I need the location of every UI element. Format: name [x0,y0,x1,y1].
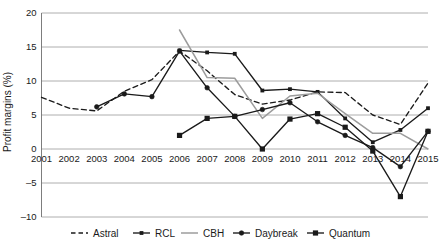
profit-margins-line-chart: –10–505101520 20012002200320042005200620… [0,0,440,247]
x-tick-label-2002: 2002 [59,153,80,164]
legend-marker-quantum [313,230,318,235]
data-point-rcl-2013 [371,140,375,144]
series-line-cbh [180,30,428,149]
data-point-quantum-2012 [343,125,348,130]
data-point-quantum-2008 [232,114,237,119]
y-tick-label-15: 15 [26,41,37,52]
data-point-quantum-2007 [205,116,210,121]
series-line-astral [42,51,429,124]
legend-group: AstralRCLCBHDaybreakQuantum [71,228,370,239]
data-point-quantum-2011 [315,111,320,116]
data-point-quantum-2006 [177,133,182,138]
data-point-quantum-2014 [398,194,403,199]
y-tick-label-10: 10 [26,75,37,86]
y-axis-title: Profit margins (%) [2,72,13,152]
y-tick-label-5: 5 [31,109,36,120]
x-tick-label-2007: 2007 [197,153,218,164]
x-tick-label-2003: 2003 [86,153,107,164]
legend-label-cbh: CBH [203,228,224,239]
legend-label-astral: Astral [93,228,119,239]
x-tick-label-2001: 2001 [31,153,52,164]
data-point-daybreak-2010 [288,100,293,105]
legend-marker-rcl [140,231,144,235]
data-point-rcl-2008 [233,52,237,56]
legend-item-quantum[interactable]: Quantum [307,228,370,239]
data-point-daybreak-2004 [122,92,127,97]
y-tick-label--10: –10 [21,211,37,222]
x-tick-label-2008: 2008 [224,153,245,164]
data-point-quantum-2010 [287,116,292,121]
data-point-daybreak-2007 [205,86,210,91]
y-axis-ticks-group: –10–505101520 [21,7,37,222]
data-point-daybreak-2005 [150,94,155,99]
legend-item-astral[interactable]: Astral [71,228,119,239]
legend-item-cbh[interactable]: CBH [181,228,224,239]
data-point-quantum-2015 [425,129,430,134]
data-point-daybreak-2012 [343,133,348,138]
data-point-daybreak-2014 [398,164,403,169]
x-tick-label-2009: 2009 [252,153,273,164]
legend-item-rcl[interactable]: RCL [133,228,175,239]
data-point-rcl-2007 [205,51,209,55]
y-tick-label-20: 20 [26,7,37,18]
legend-label-daybreak: Daybreak [255,228,299,239]
legend-marker-daybreak [239,231,244,236]
x-tick-label-2004: 2004 [114,153,135,164]
data-point-rcl-2009 [260,89,264,93]
x-tick-label-2005: 2005 [141,153,162,164]
data-point-rcl-2015 [426,106,430,110]
y-axis-title-group: Profit margins (%) [2,72,13,152]
data-point-rcl-2012 [343,117,347,121]
x-tick-label-2015: 2015 [417,153,438,164]
data-point-daybreak-2003 [94,105,99,110]
data-point-daybreak-2009 [260,107,265,112]
series-cbh [180,30,428,149]
x-tick-label-2012: 2012 [335,153,356,164]
data-point-rcl-2014 [398,128,402,132]
data-point-quantum-2009 [260,146,265,151]
legend-label-rcl: RCL [155,228,175,239]
x-tick-label-2010: 2010 [279,153,300,164]
y-tick-label--5: –5 [26,177,37,188]
data-point-rcl-2010 [288,87,292,91]
legend-label-quantum: Quantum [329,228,370,239]
series-astral [42,51,429,124]
data-point-daybreak-2011 [315,120,320,125]
data-point-daybreak-2006 [177,49,182,54]
data-point-quantum-2013 [370,148,375,153]
x-tick-label-2011: 2011 [307,153,327,164]
chart-canvas: –10–505101520 20012002200320042005200620… [0,0,440,247]
x-tick-label-2013: 2013 [362,153,383,164]
x-tick-label-2006: 2006 [169,153,190,164]
legend-item-daybreak[interactable]: Daybreak [233,228,299,239]
